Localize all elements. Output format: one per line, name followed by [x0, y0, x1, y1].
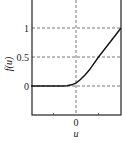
y-tick-label: 0.5 [17, 52, 30, 63]
y-axis-label: f(u) [3, 56, 15, 71]
x-tick-labels: 0 [74, 117, 79, 128]
x-axis-label: u [74, 128, 79, 139]
y-tick-labels: 00.51 [17, 23, 30, 92]
plot-frame [32, 0, 121, 115]
y-tick-label: 0 [24, 81, 29, 92]
y-tick-label: 1 [24, 23, 29, 34]
x-tick-label: 0 [74, 117, 79, 128]
grid-lines [32, 0, 121, 115]
activation-function-chart: 00.51 0 f(u) u [0, 0, 125, 144]
